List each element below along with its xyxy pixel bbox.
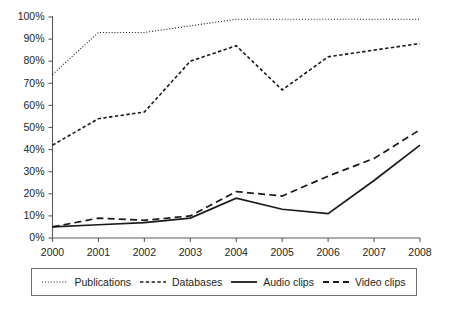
- legend-line-solid-icon: [231, 277, 257, 287]
- y-tick-label: 10%: [23, 209, 44, 221]
- y-tick-label: 100%: [18, 10, 45, 22]
- x-tick-label: 2003: [179, 246, 203, 258]
- chart-svg: 0%10%20%30%40%50%60%70%80%90%100% 200020…: [0, 0, 449, 262]
- legend-line-dashed-long-icon: [323, 277, 349, 287]
- legend-label-audio-clips: Audio clips: [263, 277, 314, 288]
- x-axis: 200020012002200320042005200620072008: [41, 238, 432, 258]
- plot-area: 0%10%20%30%40%50%60%70%80%90%100% 200020…: [0, 0, 449, 262]
- series-line-video-clips: [53, 130, 421, 227]
- legend-line-dashed-short-icon: [140, 277, 166, 287]
- y-tick-label: 0%: [29, 231, 44, 243]
- y-tick-marks: [49, 17, 53, 238]
- legend-item-publications: Publications: [42, 277, 131, 288]
- x-tick-label: 2005: [271, 246, 295, 258]
- y-tick-label: 80%: [23, 54, 44, 66]
- y-axis: 0%10%20%30%40%50%60%70%80%90%100%: [18, 10, 53, 243]
- x-tick-label: 2000: [41, 246, 65, 258]
- x-tick-labels: 200020012002200320042005200620072008: [41, 246, 432, 258]
- y-tick-label: 20%: [23, 187, 44, 199]
- y-tick-label: 90%: [23, 32, 44, 44]
- x-tick-label: 2006: [316, 246, 340, 258]
- legend-line-dotted-icon: [42, 277, 68, 287]
- x-tick-label: 2002: [133, 246, 157, 258]
- x-tick-marks: [53, 238, 421, 242]
- series-line-audio-clips: [53, 145, 421, 227]
- chart-legend: Publications Databases Audio clips: [31, 268, 417, 296]
- x-tick-label: 2008: [408, 246, 432, 258]
- legend-label-publications: Publications: [74, 277, 131, 288]
- x-tick-label: 2007: [362, 246, 386, 258]
- y-tick-labels: 0%10%20%30%40%50%60%70%80%90%100%: [18, 10, 45, 243]
- series-layer: [53, 19, 421, 227]
- y-tick-label: 30%: [23, 165, 44, 177]
- x-tick-label: 2001: [87, 246, 111, 258]
- legend-item-video-clips: Video clips: [323, 277, 406, 288]
- legend-label-video-clips: Video clips: [355, 277, 406, 288]
- y-tick-label: 50%: [23, 121, 44, 133]
- x-tick-label: 2004: [225, 246, 249, 258]
- legend-item-audio-clips: Audio clips: [231, 277, 314, 288]
- line-chart: 0%10%20%30%40%50%60%70%80%90%100% 200020…: [0, 0, 449, 314]
- y-tick-label: 60%: [23, 99, 44, 111]
- legend-item-databases: Databases: [140, 277, 222, 288]
- legend-label-databases: Databases: [172, 277, 222, 288]
- series-line-databases: [53, 44, 421, 146]
- y-tick-label: 40%: [23, 143, 44, 155]
- y-tick-label: 70%: [23, 77, 44, 89]
